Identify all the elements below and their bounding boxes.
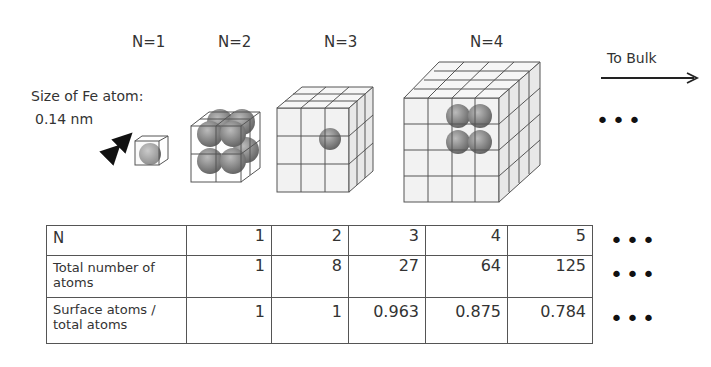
double-arrow-icon [117,136,129,148]
table-cell: 27 [349,256,426,298]
table-cell: 4 [426,226,508,256]
table-cell: 1 [272,298,349,344]
cube-n3 [277,87,373,192]
cube-n1 [135,136,168,165]
row-dots: ••• [610,236,658,246]
table-cell: 2 [272,226,349,256]
row-dots: ••• [610,314,658,324]
row-header: N [47,226,187,256]
cube-n2 [191,109,260,182]
table-row-ratio: Surface atoms / total atoms 1 1 0.963 0.… [47,298,593,344]
table-cell: 0.784 [508,298,593,344]
table-cell: 1 [187,256,272,298]
cube-n4 [404,62,540,202]
table-cell: 125 [508,256,593,298]
table-cell: 5 [508,226,593,256]
row-dots: ••• [610,270,658,280]
atoms-table: N 1 2 3 4 5 Total number of atoms 1 8 27… [46,225,593,344]
table-row-n: N 1 2 3 4 5 [47,226,593,256]
table-cell: 0.875 [426,298,508,344]
table-row-total: Total number of atoms 1 8 27 64 125 [47,256,593,298]
table-cell: 1 [187,226,272,256]
continuation-dots: ••• [596,116,644,126]
table-cell: 1 [187,298,272,344]
row-header: Total number of atoms [47,256,187,298]
table-cell: 64 [426,256,508,298]
table-cell: 8 [272,256,349,298]
row-header: Surface atoms / total atoms [47,298,187,344]
table-cell: 3 [349,226,426,256]
right-arrow-icon [601,73,697,83]
table-cell: 0.963 [349,298,426,344]
